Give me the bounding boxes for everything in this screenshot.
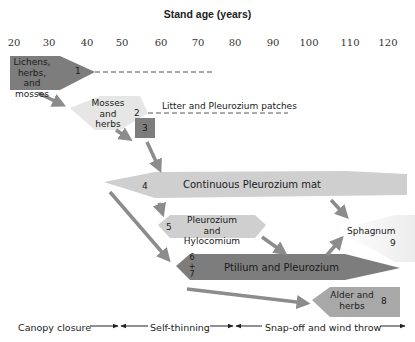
- stage-2-label: Mosses and herbs: [87, 98, 129, 130]
- phase-snap-off-wind-throw: Snap-off and wind throw: [265, 322, 381, 333]
- stage-3-label: Litter and Pleurozium patches: [162, 101, 297, 112]
- stage-6-7-label: Ptilium and Pleurozium: [224, 263, 339, 274]
- stage-1-number: 1: [75, 66, 81, 76]
- stage-9-label: Sphagnum: [347, 226, 396, 237]
- stage-6-7-number: 6 + 7: [188, 254, 196, 280]
- stage-2-number: 2: [134, 108, 140, 118]
- stage-3-number: 3: [142, 123, 148, 133]
- phase-self-thinning: Self-thinning: [150, 322, 210, 333]
- stage-8-number: 8: [381, 296, 387, 306]
- stage-8-label: Alder and herbs: [330, 290, 374, 311]
- stage-1-label: Lichens, herbs, and mosses: [10, 57, 54, 99]
- stage-4-number: 4: [142, 181, 148, 191]
- stage-9-number: 9: [390, 238, 396, 248]
- phase-canopy-closure: Canopy closure: [18, 322, 91, 333]
- stage-4-label: Continuous Pleurozium mat: [183, 180, 321, 191]
- stage-5-label: Pleurozium and Hylocomium: [178, 215, 246, 247]
- stage-9-shape: [338, 215, 415, 262]
- stage-5-number: 5: [166, 222, 172, 232]
